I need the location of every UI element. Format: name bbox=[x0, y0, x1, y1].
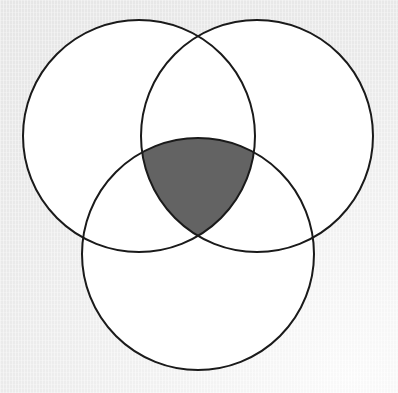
venn-diagram-canvas bbox=[0, 0, 398, 393]
venn-diagram-svg bbox=[0, 0, 398, 393]
